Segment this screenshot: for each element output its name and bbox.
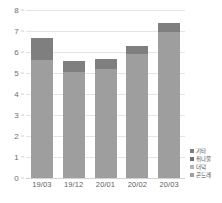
y-axis-tick-mark — [21, 94, 24, 95]
legend-swatch-icon — [190, 173, 194, 177]
y-axis-tick-label: 3 — [14, 111, 19, 120]
bar-segment[interactable] — [126, 46, 148, 54]
x-axis: 19/0319/1220/0120/0220/03 — [26, 180, 185, 194]
bar-segment[interactable] — [31, 38, 53, 60]
bar-segment[interactable] — [158, 23, 180, 32]
y-axis-tick-label: 1 — [14, 153, 19, 162]
bar-group[interactable] — [126, 46, 148, 178]
bar-group[interactable] — [31, 38, 53, 178]
legend-item-label: 기타 — [196, 148, 206, 154]
legend-item[interactable]: 더덕 — [190, 163, 222, 170]
legend-item[interactable]: 곤드레 — [190, 171, 222, 178]
gridline — [26, 178, 185, 179]
bar-segment[interactable] — [31, 60, 53, 178]
y-axis-tick-mark — [21, 136, 24, 137]
bar-segment[interactable] — [63, 61, 85, 72]
bar-group[interactable] — [95, 59, 117, 178]
y-axis-tick-mark — [21, 52, 24, 53]
chart-legend: 기타취나물더덕곤드레 — [190, 147, 222, 179]
y-axis-tick-mark — [21, 73, 24, 74]
bar-segment[interactable] — [95, 69, 117, 178]
x-axis-tick-label: 20/02 — [128, 180, 147, 189]
y-axis-tick-mark — [21, 31, 24, 32]
legend-item-label: 곤드레 — [196, 172, 211, 178]
y-axis-tick-mark — [21, 115, 24, 116]
y-axis-tick-label: 7 — [14, 27, 19, 36]
legend-item[interactable]: 기타 — [190, 147, 222, 154]
y-axis-tick-mark — [21, 178, 24, 179]
bar-series-container — [26, 10, 185, 178]
x-axis-tick-label: 20/03 — [159, 180, 178, 189]
x-axis-tick-label: 19/03 — [32, 180, 51, 189]
legend-swatch-icon — [190, 165, 194, 169]
y-axis-tick-mark — [21, 10, 24, 11]
bar-segment[interactable] — [126, 54, 148, 178]
bar-group[interactable] — [158, 23, 180, 178]
y-axis-tick-label: 8 — [14, 6, 19, 15]
bar-segment[interactable] — [63, 72, 85, 178]
plot-area — [26, 10, 185, 178]
x-axis-tick-label: 20/01 — [96, 180, 115, 189]
bar-segment[interactable] — [95, 59, 117, 69]
bar-group[interactable] — [63, 61, 85, 178]
y-axis-tick-label: 4 — [14, 90, 19, 99]
bar-segment[interactable] — [158, 32, 180, 178]
bar-chart: 012345678 19/0319/1220/0120/0220/03 기타취나… — [0, 0, 222, 203]
legend-item-label: 취나물 — [196, 156, 211, 162]
legend-item[interactable]: 취나물 — [190, 155, 222, 162]
legend-item-label: 더덕 — [196, 164, 206, 170]
y-axis: 012345678 — [0, 10, 24, 178]
y-axis-tick-mark — [21, 157, 24, 158]
y-axis-tick-label: 0 — [14, 174, 19, 183]
y-axis-tick-label: 2 — [14, 132, 19, 141]
legend-swatch-icon — [190, 157, 194, 161]
x-axis-tick-label: 19/12 — [64, 180, 83, 189]
y-axis-tick-label: 6 — [14, 48, 19, 57]
legend-swatch-icon — [190, 149, 194, 153]
y-axis-tick-label: 5 — [14, 69, 19, 78]
